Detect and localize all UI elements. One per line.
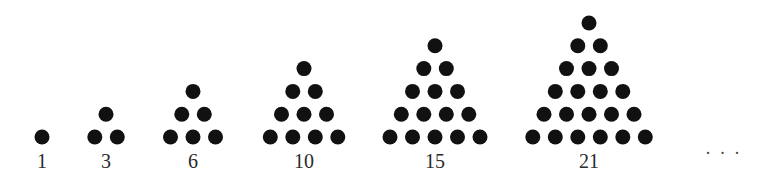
dot	[461, 107, 476, 122]
dot	[174, 107, 189, 122]
dot	[593, 84, 608, 99]
dot	[394, 107, 409, 122]
dot	[285, 84, 300, 99]
dot	[110, 130, 125, 145]
dot	[319, 107, 334, 122]
dot-triangles	[0, 0, 765, 181]
dot	[582, 61, 597, 76]
dot	[416, 61, 431, 76]
dot	[428, 130, 443, 145]
triangle-6	[163, 84, 223, 145]
dot	[537, 107, 552, 122]
triangle-10	[263, 61, 346, 144]
triangle-21	[525, 16, 653, 145]
dot	[186, 130, 201, 145]
dot	[570, 84, 585, 99]
dot	[208, 130, 223, 145]
label-3: 3	[101, 151, 111, 171]
dot	[197, 107, 212, 122]
dot	[604, 107, 619, 122]
dot	[582, 16, 597, 31]
dot	[559, 107, 574, 122]
label-15: 15	[425, 151, 445, 171]
dot	[87, 130, 102, 145]
dot	[297, 61, 312, 76]
dot	[330, 130, 345, 145]
dot	[308, 130, 323, 145]
dot	[627, 107, 642, 122]
dot	[525, 130, 540, 145]
dot	[308, 84, 323, 99]
dot	[638, 130, 653, 145]
dot	[615, 84, 630, 99]
dot	[548, 130, 563, 145]
dot	[99, 107, 114, 122]
triangle-3	[87, 107, 125, 145]
dot	[383, 130, 398, 145]
dot	[405, 84, 420, 99]
dot	[439, 61, 454, 76]
triangle-1	[35, 130, 50, 145]
dot	[416, 107, 431, 122]
label-1: 1	[37, 151, 47, 171]
label-6: 6	[188, 151, 198, 171]
dot	[35, 130, 50, 145]
dot	[582, 107, 597, 122]
label-21: 21	[579, 151, 599, 171]
dot	[559, 61, 574, 76]
dot	[297, 107, 312, 122]
dot	[263, 130, 278, 145]
dot	[428, 38, 443, 53]
dot	[593, 38, 608, 53]
dot	[274, 107, 289, 122]
dot	[615, 130, 630, 145]
continuation-ellipsis: · · ·	[705, 143, 742, 164]
dot	[548, 84, 563, 99]
triangular-numbers-diagram: 1 3 6 10 15 21 · · ·	[0, 0, 765, 181]
dot	[570, 130, 585, 145]
dot	[405, 130, 420, 145]
dot	[604, 61, 619, 76]
dot	[570, 38, 585, 53]
dot	[285, 130, 300, 145]
dot	[439, 107, 454, 122]
dot	[428, 84, 443, 99]
triangle-15	[383, 38, 488, 144]
dot	[163, 130, 178, 145]
dot	[473, 130, 488, 145]
dot	[450, 84, 465, 99]
dot	[593, 130, 608, 145]
dot	[186, 84, 201, 99]
label-10: 10	[294, 151, 314, 171]
dot	[450, 130, 465, 145]
